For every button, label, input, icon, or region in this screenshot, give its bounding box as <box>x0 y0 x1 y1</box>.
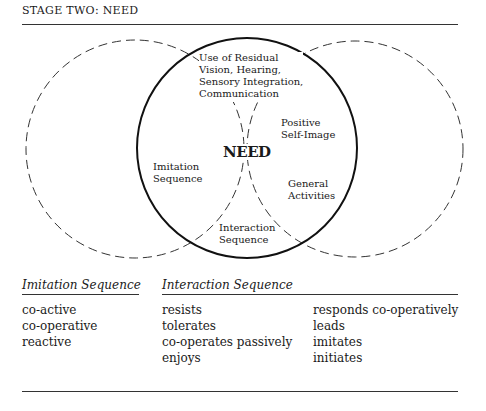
list-item: co-active <box>22 302 97 318</box>
interaction-sequence-list-col2: responds co-operatively leads imitates i… <box>313 302 458 366</box>
label-residual-senses: Use of Residual Vision, Hearing, Sensory… <box>199 52 303 102</box>
interaction-sequence-heading: Interaction Sequence <box>162 278 293 292</box>
label-general-activities: General Activities <box>288 178 335 202</box>
label-positive-self-image: Positive Self-Image <box>281 117 335 141</box>
label-line: Self-Image <box>281 129 335 141</box>
label-interaction-sequence: Interaction Sequence <box>219 222 275 246</box>
need-center-label: NEED <box>222 144 272 160</box>
interaction-sequence-list-col1: resists tolerates co-operates passively … <box>162 302 292 366</box>
label-line: Positive <box>281 117 335 129</box>
label-line: Sequence <box>153 173 203 185</box>
label-line: Imitation <box>153 161 203 173</box>
label-line: Communication <box>199 88 303 100</box>
list-item: imitates <box>313 334 458 350</box>
list-item: responds co-operatively <box>313 302 458 318</box>
list-item: co-operative <box>22 318 97 334</box>
imitation-sequence-heading: Imitation Sequence <box>22 278 141 292</box>
bottom-rule <box>22 391 458 392</box>
list-item: leads <box>313 318 458 334</box>
imitation-sequence-list: co-active co-operative reactive <box>22 302 97 350</box>
list-item: reactive <box>22 334 97 350</box>
label-line: Sequence <box>219 234 269 246</box>
interaction-heading-rule <box>162 294 458 295</box>
imitation-heading-rule <box>22 294 139 295</box>
label-line: Vision, Hearing, <box>199 64 303 76</box>
label-line: Interaction <box>219 222 275 234</box>
list-item: initiates <box>313 350 458 366</box>
list-item: resists <box>162 302 292 318</box>
list-item: enjoys <box>162 350 292 366</box>
label-line: Activities <box>288 190 335 202</box>
label-line: Use of Residual <box>199 52 303 64</box>
label-line: Sensory Integration, <box>199 76 303 88</box>
label-line: General <box>288 178 335 190</box>
list-item: tolerates <box>162 318 292 334</box>
label-imitation-sequence: Imitation Sequence <box>153 161 203 185</box>
list-item: co-operates passively <box>162 334 292 350</box>
